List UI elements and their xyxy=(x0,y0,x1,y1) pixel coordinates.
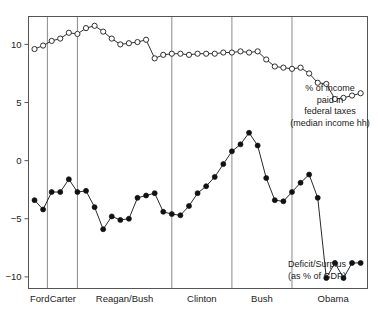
data-point xyxy=(221,162,226,167)
taxes-annotation: % of incomepaid infederal taxes(median i… xyxy=(283,83,377,129)
data-point xyxy=(152,56,157,61)
data-point xyxy=(135,39,140,44)
era-label-clinton: Clinton xyxy=(187,293,217,304)
era-label-carter: Carter xyxy=(50,293,76,304)
data-point xyxy=(246,50,251,55)
data-point xyxy=(161,209,166,214)
annotation-line-1: paid in xyxy=(283,95,377,107)
data-point xyxy=(66,30,71,35)
data-point xyxy=(272,64,277,69)
data-point xyxy=(255,143,260,148)
data-point xyxy=(221,50,226,55)
data-point xyxy=(307,71,312,76)
data-point xyxy=(169,51,174,56)
data-point xyxy=(49,38,54,43)
annotation-line-0: Deficit/Surplus xyxy=(288,259,378,271)
era-label-bush: Bush xyxy=(251,293,273,304)
data-point xyxy=(307,172,312,177)
data-point xyxy=(161,52,166,57)
annotation-line-1: (as % of GDP) xyxy=(288,271,378,283)
data-point xyxy=(75,31,80,36)
y-tick-label-3: 5 xyxy=(16,97,21,108)
data-point xyxy=(32,198,37,203)
annotation-line-0: % of income xyxy=(283,83,377,95)
data-point xyxy=(212,51,217,56)
data-point xyxy=(41,207,46,212)
data-point xyxy=(186,203,191,208)
era-label-group: FordCarterReagan/BushClintonBushObama xyxy=(30,293,350,304)
data-point xyxy=(298,180,303,185)
data-point xyxy=(238,49,243,54)
data-point xyxy=(126,41,131,46)
data-point xyxy=(144,193,149,198)
data-point xyxy=(101,29,106,34)
data-point xyxy=(204,184,209,189)
plot-frame xyxy=(29,17,368,289)
data-point xyxy=(264,176,269,181)
data-point xyxy=(66,177,71,182)
data-point xyxy=(32,46,37,51)
data-point xyxy=(281,65,286,70)
era-label-ford: Ford xyxy=(30,293,50,304)
annotation-line-3: (median income hh) xyxy=(283,118,377,130)
data-point xyxy=(143,37,148,42)
data-point xyxy=(264,57,269,62)
data-point xyxy=(84,188,89,193)
series-group xyxy=(32,23,363,280)
series-deficit xyxy=(32,130,363,280)
era-label-reagan-bush: Reagan/Bush xyxy=(96,293,154,304)
data-point xyxy=(92,205,97,210)
y-tick-label-1: −5 xyxy=(11,213,22,224)
data-point xyxy=(109,214,114,219)
data-point xyxy=(40,43,45,48)
data-point xyxy=(281,199,286,204)
data-point xyxy=(298,65,303,70)
data-point xyxy=(272,198,277,203)
data-point xyxy=(186,52,191,57)
data-point xyxy=(229,50,234,55)
data-point xyxy=(169,212,174,217)
data-point xyxy=(83,26,88,31)
era-divider-group xyxy=(47,17,292,289)
data-point xyxy=(289,190,294,195)
y-tick-label-2: 0 xyxy=(16,155,21,166)
data-point xyxy=(58,36,63,41)
data-point xyxy=(195,51,200,56)
data-point xyxy=(109,36,114,41)
data-point xyxy=(238,142,243,147)
data-point xyxy=(229,149,234,154)
series-line xyxy=(35,133,361,278)
data-point xyxy=(152,191,157,196)
data-point xyxy=(58,190,63,195)
y-tick-group: −10−50510 xyxy=(5,39,28,282)
deficit-annotation: Deficit/Surplus(as % of GDP) xyxy=(288,259,378,282)
data-point xyxy=(75,190,80,195)
data-point xyxy=(178,51,183,56)
data-point xyxy=(135,195,140,200)
annotation-line-2: federal taxes xyxy=(283,106,377,118)
data-point xyxy=(315,195,320,200)
data-point xyxy=(126,216,131,221)
data-point xyxy=(212,174,217,179)
data-point xyxy=(204,51,209,56)
era-label-obama: Obama xyxy=(318,293,350,304)
data-point xyxy=(289,66,294,71)
y-tick-label-0: −10 xyxy=(5,271,21,282)
data-point xyxy=(247,130,252,135)
data-point xyxy=(92,23,97,28)
data-point xyxy=(49,190,54,195)
data-point xyxy=(118,217,123,222)
data-point xyxy=(178,213,183,218)
chart-figure: −10−50510 FordCarterReagan/BushClintonBu… xyxy=(0,0,378,321)
y-tick-label-4: 10 xyxy=(11,39,22,50)
data-point xyxy=(195,191,200,196)
data-point xyxy=(255,49,260,54)
data-point xyxy=(118,42,123,47)
data-point xyxy=(101,227,106,232)
plot-frame-rect xyxy=(29,17,368,289)
